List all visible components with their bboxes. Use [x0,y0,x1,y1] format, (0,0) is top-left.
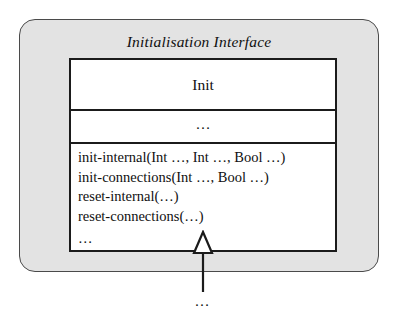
operations-ellipsis-label: … [78,231,335,246]
class-operations-compartment: init-internal(Int …, Int …, Bool …) init… [71,144,335,250]
package-title: Initialisation Interface [20,33,378,51]
operation-item: init-connections(Int …, Bool …) [78,168,335,188]
class-name-compartment: Init [71,60,335,111]
initialisation-interface-package: Initialisation Interface Init … init-int… [19,19,379,272]
connector-target-ellipsis-label: … [0,294,404,309]
attributes-ellipsis-label: … [196,117,211,132]
init-class-box: Init … init-internal(Int …, Int …, Bool … [69,58,337,252]
operation-item: init-internal(Int …, Int …, Bool …) [78,148,335,168]
operation-item: reset-internal(…) [78,187,335,207]
class-attributes-compartment: … [71,111,335,144]
operation-item: reset-connections(…) [78,207,335,227]
diagram-canvas: Initialisation Interface Init … init-int… [0,0,404,316]
class-name-label: Init [192,76,214,94]
